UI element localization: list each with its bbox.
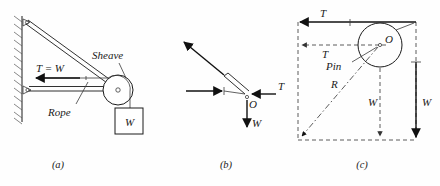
strut-force-arrow-b bbox=[184, 42, 224, 75]
caption-b: (b) bbox=[220, 159, 233, 171]
sheave-hub bbox=[116, 88, 120, 92]
origin-label-c: O bbox=[385, 33, 393, 45]
resultant-label-c: R bbox=[330, 78, 338, 90]
origin-label-b: O bbox=[249, 98, 257, 110]
figure-root: T = W Sheave Rope W (a) O bbox=[0, 0, 440, 186]
tension-label-top-c: T bbox=[320, 7, 327, 19]
rope-leader bbox=[76, 82, 88, 104]
figure-canvas: T = W Sheave Rope W (a) O bbox=[0, 0, 440, 186]
tension-label-b: T bbox=[278, 80, 285, 92]
weight-label-a: W bbox=[125, 116, 135, 128]
wall-hatching bbox=[14, 16, 22, 124]
panel-b: O T W (b) bbox=[184, 42, 285, 171]
weight-label-outer-c: W bbox=[422, 96, 432, 108]
sheave-label: Sheave bbox=[92, 49, 123, 61]
point-o-c bbox=[378, 43, 381, 46]
pin-leader-c bbox=[352, 47, 377, 62]
tangent-segment-c bbox=[396, 23, 414, 30]
construction-box-c bbox=[298, 22, 416, 140]
panel-c: T T O Pin R W W (c) bbox=[298, 7, 432, 171]
tension-label-mid-c: T bbox=[322, 48, 329, 60]
upper-pin-support bbox=[23, 19, 30, 26]
weight-label-b: W bbox=[252, 117, 262, 129]
caption-a: (a) bbox=[52, 159, 65, 171]
strut-member-b bbox=[224, 73, 249, 94]
weight-label-inner-c: W bbox=[368, 96, 378, 108]
pin-label-c: Pin bbox=[325, 60, 342, 72]
caption-c: (c) bbox=[356, 159, 368, 171]
horizontal-member bbox=[29, 87, 114, 92]
panel-a: T = W Sheave Rope W (a) bbox=[14, 16, 143, 171]
lower-pin-support bbox=[23, 86, 31, 94]
tension-label-a: T = W bbox=[36, 62, 65, 74]
rope-label: Rope bbox=[47, 106, 71, 118]
